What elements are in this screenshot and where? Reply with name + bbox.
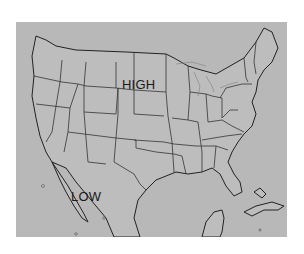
- cuba: [244, 202, 284, 216]
- island-dot: [259, 229, 261, 231]
- low-pressure-label: LOW: [71, 190, 101, 203]
- us-map-graphic: [16, 22, 287, 237]
- bahamas: [254, 188, 266, 198]
- island-dot: [75, 233, 77, 235]
- weather-map: HIGH LOW: [16, 22, 287, 237]
- island-dot: [103, 217, 105, 219]
- island-dot: [42, 185, 45, 188]
- yucatan: [202, 210, 224, 237]
- high-pressure-label: HIGH: [122, 78, 155, 91]
